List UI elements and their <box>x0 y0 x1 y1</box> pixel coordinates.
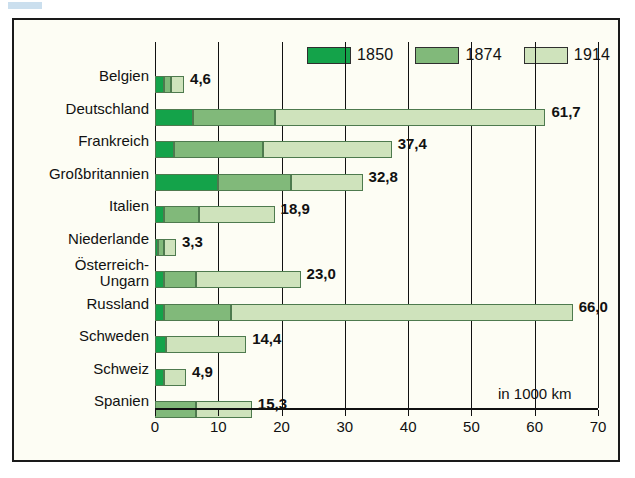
bar-value-label: 14,4 <box>252 330 281 347</box>
bar-segment-1914 <box>164 369 186 386</box>
x-tick-label-20: 20 <box>273 418 290 435</box>
category-label-line: Spanien <box>9 393 149 409</box>
category-label-line: Niederlande <box>9 231 149 247</box>
stacked-bar <box>155 336 246 353</box>
stacked-bar <box>155 369 186 386</box>
category-label-line: Schweden <box>9 328 149 344</box>
category-label: Österreich-Ungarn <box>9 257 149 289</box>
category-label-line: Russland <box>9 296 149 312</box>
x-tick-70 <box>598 410 599 416</box>
bar-segment-1914 <box>291 174 363 191</box>
stacked-bar <box>155 304 573 321</box>
bar-row: Belgien4,6 <box>14 68 618 98</box>
bar-value-label: 66,0 <box>579 298 608 315</box>
bar-segment-1850 <box>155 304 164 321</box>
bar-segment-1914 <box>166 336 246 353</box>
bar-segment-1914 <box>275 109 545 126</box>
bar-value-label: 18,9 <box>281 200 310 217</box>
bar-value-label: 4,6 <box>190 70 211 87</box>
plot-area: 185018741914 Belgien4,6Deutschland61,7Fr… <box>14 20 618 460</box>
bar-segment-1874 <box>164 206 199 223</box>
x-tick-40 <box>408 410 409 416</box>
bar-segment-1914 <box>171 76 184 93</box>
bar-value-label: 4,9 <box>192 363 213 380</box>
bar-row: Großbritannien32,8 <box>14 166 618 196</box>
bar-segment-1874 <box>193 109 275 126</box>
legend-item-1874: 1874 <box>415 46 501 64</box>
bar-segment-1914 <box>263 141 392 158</box>
stacked-bar <box>155 76 184 93</box>
bar-row: Italien18,9 <box>14 198 618 228</box>
scan-artifact <box>8 2 42 9</box>
category-label: Schweden <box>9 328 149 344</box>
stacked-bar <box>155 109 545 126</box>
bar-row: Österreich-Ungarn23,0 <box>14 263 618 293</box>
x-tick-label-30: 30 <box>337 418 354 435</box>
category-label-line: Deutschland <box>9 101 149 117</box>
bar-segment-1914 <box>231 304 573 321</box>
bar-segment-1850 <box>155 174 218 191</box>
bar-segment-1914 <box>196 271 300 288</box>
bar-segment-1850 <box>155 369 164 386</box>
bar-value-label: 3,3 <box>182 233 203 250</box>
x-tick-0 <box>155 410 156 416</box>
legend-label-1914: 1914 <box>574 46 610 64</box>
legend-swatch-1874 <box>415 47 459 64</box>
x-tick-label-50: 50 <box>463 418 480 435</box>
chart-legend: 185018741914 <box>307 46 610 64</box>
bar-segment-1850 <box>155 76 164 93</box>
x-tick-60 <box>535 410 536 416</box>
bar-segment-1874 <box>218 174 291 191</box>
bar-segment-1850 <box>155 141 174 158</box>
bar-value-label: 32,8 <box>369 168 398 185</box>
stacked-bar <box>155 141 392 158</box>
bar-segment-1850 <box>155 109 193 126</box>
category-label-line: Ungarn <box>9 273 149 289</box>
bar-value-label: 61,7 <box>551 103 580 120</box>
chart-figure: 185018741914 Belgien4,6Deutschland61,7Fr… <box>12 18 620 462</box>
category-label: Deutschland <box>9 101 149 117</box>
category-label: Russland <box>9 296 149 312</box>
x-tick-label-70: 70 <box>590 418 607 435</box>
category-label-line: Österreich- <box>9 257 149 273</box>
bar-value-label: 37,4 <box>398 135 427 152</box>
bar-segment-1874 <box>164 304 230 321</box>
x-tick-50 <box>471 410 472 416</box>
legend-item-1850: 1850 <box>307 46 393 64</box>
x-tick-label-60: 60 <box>526 418 543 435</box>
category-label-line: Belgien <box>9 68 149 84</box>
bar-segment-1874 <box>174 141 263 158</box>
bar-segment-1874 <box>164 271 196 288</box>
category-label-line: Italien <box>9 198 149 214</box>
stacked-bar <box>155 174 363 191</box>
bar-segment-1914 <box>164 239 176 256</box>
bar-row: Deutschland61,7 <box>14 101 618 131</box>
bar-row: Russland66,0 <box>14 296 618 326</box>
category-label: Niederlande <box>9 231 149 247</box>
category-label: Belgien <box>9 68 149 84</box>
x-axis-line <box>155 408 598 410</box>
x-tick-10 <box>218 410 219 416</box>
bar-segment-1914 <box>199 206 274 223</box>
x-tick-label-10: 10 <box>210 418 227 435</box>
x-tick-30 <box>345 410 346 416</box>
x-tick-label-0: 0 <box>151 418 159 435</box>
category-label: Frankreich <box>9 133 149 149</box>
unit-note: in 1000 km <box>498 385 571 402</box>
legend-label-1850: 1850 <box>357 46 393 64</box>
x-tick-label-40: 40 <box>400 418 417 435</box>
category-label: Spanien <box>9 393 149 409</box>
category-label: Schweiz <box>9 361 149 377</box>
legend-swatch-1914 <box>524 47 568 64</box>
bar-value-label: 23,0 <box>307 265 336 282</box>
x-tick-20 <box>282 410 283 416</box>
category-label-line: Frankreich <box>9 133 149 149</box>
category-label-line: Schweiz <box>9 361 149 377</box>
category-label-line: Großbritannien <box>9 166 149 182</box>
stacked-bar <box>155 206 275 223</box>
bar-row: Frankreich37,4 <box>14 133 618 163</box>
bar-row: Schweden14,4 <box>14 328 618 358</box>
stacked-bar <box>155 271 301 288</box>
category-label: Italien <box>9 198 149 214</box>
bar-segment-1850 <box>155 336 166 353</box>
